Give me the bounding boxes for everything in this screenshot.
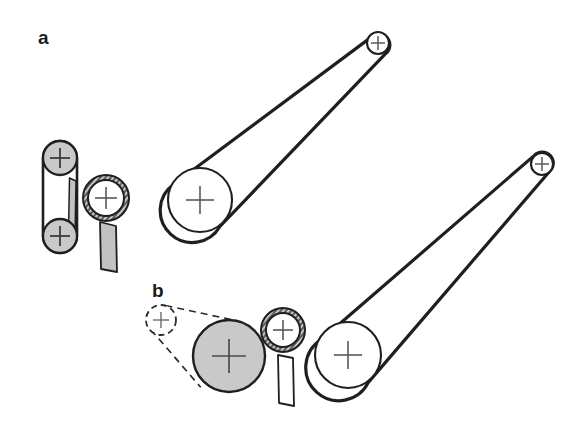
panel-b-small-idler-pulley: [531, 153, 553, 175]
panel-a-hatched-ring-pulley: [83, 175, 129, 221]
belt-drive-diagram: a: [0, 0, 582, 436]
panel-b-label: b: [152, 280, 164, 301]
post-body: [100, 222, 117, 272]
panel-a-support-post: [100, 222, 117, 272]
panel-a-upper-gray-roller: [43, 141, 77, 175]
panel-a-large-drive-pulley: [168, 168, 232, 232]
panel-a-label: a: [38, 27, 49, 48]
panel-b-support-post: [278, 355, 294, 406]
panel-b-hatched-ring-pulley: [261, 308, 305, 352]
panel-a-small-idler-pulley: [367, 32, 389, 54]
panel-b-gray-drum: [193, 320, 265, 392]
post-body: [278, 355, 294, 406]
panel-a-lower-gray-roller: [43, 219, 77, 253]
panel-b-large-drive-pulley: [315, 322, 381, 388]
figure-container: a: [0, 0, 582, 436]
panel-b-ghost-idler-pulley: [146, 305, 176, 335]
